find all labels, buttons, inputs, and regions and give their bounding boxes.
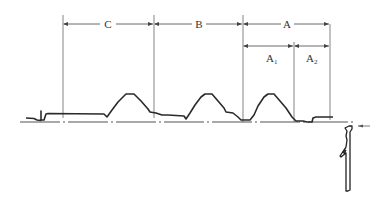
label-a1-sub: 1 bbox=[274, 58, 278, 66]
label-a2-main: A bbox=[306, 52, 314, 64]
profile-trace bbox=[26, 94, 333, 122]
label-a2: A2 bbox=[306, 52, 318, 66]
reference-arrow bbox=[358, 125, 370, 128]
label-b: B bbox=[195, 18, 202, 30]
extension-lines bbox=[63, 15, 330, 122]
reference-arrow-head-icon bbox=[358, 125, 363, 128]
label-c: C bbox=[104, 18, 111, 30]
label-a2-sub: 2 bbox=[314, 58, 318, 66]
label-a1: A1 bbox=[266, 52, 278, 66]
hook-tool-icon bbox=[340, 126, 352, 191]
diagram-canvas: C B A A1 A2 bbox=[0, 0, 389, 205]
label-a: A bbox=[283, 18, 291, 30]
label-a1-main: A bbox=[266, 52, 274, 64]
